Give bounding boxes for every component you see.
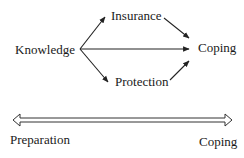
continuum-double-arrow (13, 114, 232, 126)
node-protection: Protection (115, 75, 168, 88)
arrow-protection-coping (170, 61, 189, 80)
arrow-insurance-coping (164, 18, 189, 38)
node-insurance: Insurance (111, 9, 162, 22)
continuum-right-label: Coping (199, 135, 237, 148)
diagram-canvas: Knowledge Insurance Protection Coping Pr… (0, 0, 244, 158)
node-coping: Coping (198, 41, 236, 54)
continuum-left-label: Preparation (10, 133, 70, 146)
node-knowledge: Knowledge (15, 43, 75, 56)
arrow-knowledge-insurance (80, 17, 105, 49)
arrow-knowledge-protection (80, 49, 108, 82)
